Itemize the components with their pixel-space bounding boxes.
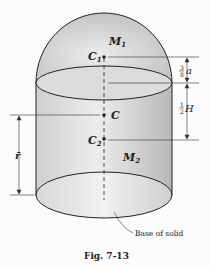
label-r-bar: r̄ xyxy=(15,150,21,161)
label-half-h: 1 2 H xyxy=(179,101,194,115)
label-base-of-solid: Base of solid xyxy=(135,229,183,238)
figure-caption: Fig. 7-13 xyxy=(84,251,129,261)
svg-text:8: 8 xyxy=(180,71,184,78)
centroid-c1-dot xyxy=(102,55,106,59)
centroid-c2-dot xyxy=(102,137,106,141)
svg-text:1: 1 xyxy=(180,101,184,108)
label-three-eighths-a: 3 8 a xyxy=(179,64,192,78)
svg-text:3: 3 xyxy=(180,64,184,71)
composite-solid-diagram: M1 C1 C C2 M2 r̄ 3 8 a 1 2 H Base of sol… xyxy=(0,0,210,268)
label-c: C xyxy=(111,109,120,122)
svg-text:2: 2 xyxy=(180,108,184,115)
svg-text:a: a xyxy=(186,65,192,76)
svg-text:H: H xyxy=(184,103,194,114)
centroid-c-dot xyxy=(102,113,106,117)
